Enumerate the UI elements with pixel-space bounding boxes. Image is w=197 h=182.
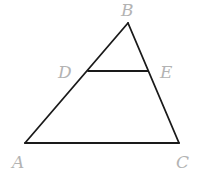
label-c: C xyxy=(176,152,189,172)
label-e: E xyxy=(159,62,173,82)
label-b: B xyxy=(120,0,134,20)
segment-ab xyxy=(25,23,128,143)
label-d: D xyxy=(57,62,72,82)
segment-bc xyxy=(128,23,179,143)
triangle-diagram: A B C D E xyxy=(0,0,197,182)
label-a: A xyxy=(10,152,24,172)
